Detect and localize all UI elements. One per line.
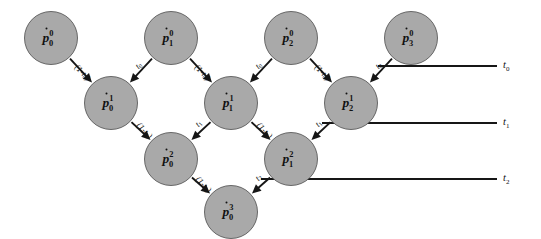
rail-labels-layer: t0t1t2 [503, 59, 510, 185]
node-p01[interactable]: p10 [85, 77, 138, 130]
edge-label: t2 [253, 172, 264, 183]
node-label-p12: p21 [282, 149, 294, 169]
node-p00[interactable]: p00 [25, 12, 78, 65]
node-p30[interactable]: p03 [385, 12, 438, 65]
de-casteljau-diagram: p00p01p02p03p10p11p12p20p21p30 (1-t0)t0(… [0, 0, 541, 239]
node-label-p10: p01 [162, 28, 174, 48]
node-label-p02: p20 [162, 149, 174, 169]
edge-label: (1-t2) [193, 174, 213, 195]
node-label-p21: p12 [342, 93, 354, 113]
node-p12[interactable]: p21 [265, 133, 318, 186]
rail-t1-label: t1 [503, 116, 510, 129]
edge-label: (1-t1) [254, 120, 274, 141]
node-p02[interactable]: p20 [145, 133, 198, 186]
node-label-p03: p30 [222, 202, 234, 222]
node-p11[interactable]: p11 [205, 77, 258, 130]
edge-label: t1 [193, 118, 204, 129]
node-p03[interactable]: p30 [205, 186, 258, 239]
rail-t2-label: t2 [503, 172, 510, 185]
node-p20[interactable]: p02 [265, 12, 318, 65]
node-label-p00: p00 [42, 28, 54, 48]
node-label-p30: p03 [402, 28, 414, 48]
node-label-p11: p11 [222, 93, 234, 113]
rail-t0-label: t0 [503, 59, 510, 72]
nodes-layer: p00p01p02p03p10p11p12p20p21p30 [25, 12, 438, 239]
diagram-canvas: p00p01p02p03p10p11p12p20p21p30 (1-t0)t0(… [0, 0, 541, 239]
edge-label: (1-t1) [134, 120, 154, 141]
node-p10[interactable]: p01 [145, 12, 198, 65]
node-p21[interactable]: p12 [325, 77, 378, 130]
node-label-p20: p02 [282, 28, 294, 48]
node-label-p01: p10 [102, 93, 114, 113]
